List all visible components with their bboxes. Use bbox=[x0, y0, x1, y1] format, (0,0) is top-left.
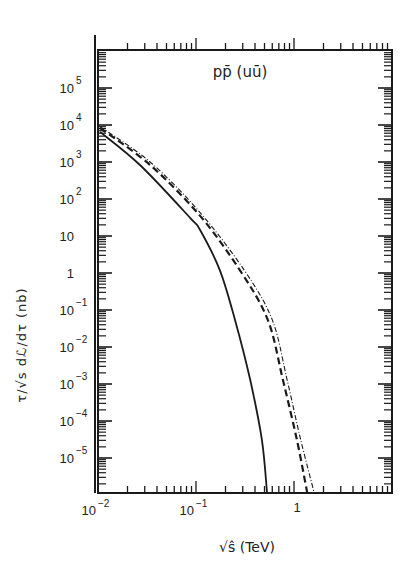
y-tick-label: 10 bbox=[60, 229, 74, 244]
svg-text:−1: −1 bbox=[76, 297, 88, 308]
svg-text:10: 10 bbox=[60, 303, 74, 318]
y-tick-label: 10−4 bbox=[60, 408, 88, 429]
y-axis-label: τ/√s dℒ/dτ (nb) bbox=[14, 287, 29, 402]
y-tick-label: 10−1 bbox=[60, 297, 88, 318]
y-axis-tick-labels: 10510410310210110−110−210−310−410−5 bbox=[60, 75, 88, 466]
svg-text:1: 1 bbox=[293, 500, 300, 515]
x-axis-tick-labels: 10−210−11 bbox=[82, 498, 301, 518]
svg-text:10: 10 bbox=[60, 229, 74, 244]
svg-text:10: 10 bbox=[60, 81, 74, 96]
curve-dashed bbox=[100, 128, 307, 492]
svg-text:−2: −2 bbox=[98, 498, 110, 509]
svg-text:1: 1 bbox=[67, 266, 74, 281]
y-tick-label: 10−5 bbox=[60, 445, 88, 466]
svg-text:10: 10 bbox=[60, 118, 74, 133]
curve-dash-dot bbox=[100, 127, 314, 492]
svg-text:−5: −5 bbox=[76, 445, 88, 456]
svg-text:2: 2 bbox=[76, 186, 82, 197]
svg-text:10: 10 bbox=[82, 503, 96, 518]
y-tick-label: 10−2 bbox=[60, 334, 88, 355]
y-tick-label: 103 bbox=[60, 149, 82, 170]
data-curves bbox=[100, 127, 314, 492]
svg-text:5: 5 bbox=[76, 75, 82, 86]
svg-text:10: 10 bbox=[60, 451, 74, 466]
x-tick-label: 10−2 bbox=[82, 498, 110, 518]
svg-text:−1: −1 bbox=[196, 498, 208, 509]
svg-text:10: 10 bbox=[60, 192, 74, 207]
chart-figure: 10510410310210110−110−210−310−410−5 10−2… bbox=[0, 0, 411, 579]
y-tick-label: 1 bbox=[67, 266, 74, 281]
chart-title: pp̄ (uū) bbox=[213, 63, 268, 81]
x-tick-label: 1 bbox=[293, 500, 300, 515]
svg-text:−2: −2 bbox=[76, 334, 88, 345]
x-tick-label: 10−1 bbox=[180, 498, 208, 518]
y-tick-label: 104 bbox=[60, 112, 82, 133]
svg-text:3: 3 bbox=[76, 149, 82, 160]
svg-text:10: 10 bbox=[60, 340, 74, 355]
svg-text:−4: −4 bbox=[76, 408, 88, 419]
axis-ticks bbox=[98, 38, 392, 493]
plot-frame bbox=[95, 35, 392, 493]
x-axis-label: √ŝ (TeV) bbox=[219, 539, 275, 555]
svg-text:10: 10 bbox=[60, 155, 74, 170]
svg-text:4: 4 bbox=[76, 112, 82, 123]
curve-solid bbox=[100, 132, 267, 492]
y-tick-label: 105 bbox=[60, 75, 82, 96]
y-tick-label: 10−3 bbox=[60, 371, 88, 392]
svg-text:10: 10 bbox=[60, 414, 74, 429]
svg-text:−3: −3 bbox=[76, 371, 88, 382]
svg-text:10: 10 bbox=[180, 503, 194, 518]
y-tick-label: 102 bbox=[60, 186, 82, 207]
svg-text:10: 10 bbox=[60, 377, 74, 392]
